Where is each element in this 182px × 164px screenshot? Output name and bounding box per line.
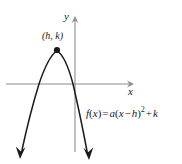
equation-equals: = [101, 107, 109, 119]
equation-minus: − [124, 107, 132, 119]
parabola-figure: y x (h, k) f(x)=a(x−h)2+k [0, 0, 182, 164]
parabola-curve [22, 51, 87, 152]
parabola-left-arrowhead [16, 147, 26, 160]
x-axis-label: x [128, 86, 133, 97]
parabola-right-arrowhead [84, 147, 94, 160]
y-axis-label: y [64, 11, 69, 22]
equation-k: k [153, 107, 158, 119]
graph-canvas [0, 0, 182, 164]
vertex-point [54, 47, 60, 53]
equation-x2: x [119, 107, 124, 119]
vertex-coordinate-label: (h, k) [42, 31, 63, 41]
function-equation-label: f(x)=a(x−h)2+k [86, 106, 158, 119]
equation-plus: + [145, 107, 153, 119]
